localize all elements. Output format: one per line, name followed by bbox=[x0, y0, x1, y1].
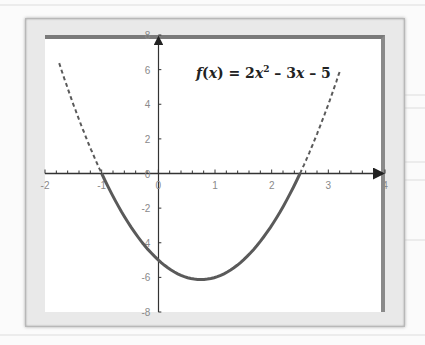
formula-paren: ( bbox=[202, 65, 209, 81]
y-tick-label: -6 bbox=[141, 272, 150, 283]
formula-part: – 5 bbox=[304, 65, 331, 81]
curve-dashed-left bbox=[59, 63, 101, 173]
formula-part: – 3 bbox=[270, 65, 297, 81]
x-tick-label: -2 bbox=[41, 180, 50, 191]
x-tick-label: 4 bbox=[382, 180, 388, 191]
y-tick-label: -8 bbox=[141, 307, 150, 318]
function-formula-label: f(x) = 2x2 – 3x – 5 bbox=[196, 64, 331, 81]
x-tick-label: 1 bbox=[212, 180, 218, 191]
y-tick-label: 0 bbox=[145, 169, 151, 180]
y-tick-label: -2 bbox=[141, 203, 150, 214]
x-tick-label: 3 bbox=[326, 180, 332, 191]
x-axis-tick-labels: -2-101234 bbox=[41, 180, 389, 191]
y-tick-label: 8 bbox=[145, 30, 151, 41]
formula-part: = 2 bbox=[224, 65, 255, 81]
x-tick-label: 2 bbox=[269, 180, 275, 191]
formula-paren: ) bbox=[217, 65, 224, 81]
y-tick-label: 2 bbox=[145, 134, 151, 145]
formula-var: x bbox=[209, 65, 217, 81]
x-tick-label: 0 bbox=[156, 180, 162, 191]
y-tick-label: 6 bbox=[145, 65, 151, 76]
formula-var: x bbox=[255, 65, 263, 81]
quadratic-chart: -2-101234 86420-2-4-6-8 bbox=[0, 0, 425, 345]
curve-dashed-right bbox=[300, 72, 340, 174]
y-tick-label: 4 bbox=[145, 99, 151, 110]
